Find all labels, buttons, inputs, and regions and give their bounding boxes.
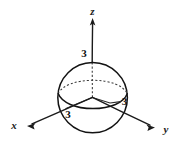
figure-canvas: z x y 3 3 3 [0,0,178,148]
z-axis-label: z [89,5,95,17]
y-intercept-value: 3 [122,95,128,107]
x-axis-label: x [10,119,17,131]
z-axis-group [90,18,96,63]
x-axis-arrowhead [27,123,36,129]
y-axis-label: y [162,123,169,135]
x-axis-group [27,97,92,129]
y-axis-arrowhead [146,125,155,131]
sphere-coordinate-diagram: z x y 3 3 3 [0,0,178,148]
z-intercept-value: 3 [81,47,87,59]
x-intercept-value: 3 [65,108,71,120]
x-axis-line [32,97,92,123]
radius-segments-group [66,63,121,108]
